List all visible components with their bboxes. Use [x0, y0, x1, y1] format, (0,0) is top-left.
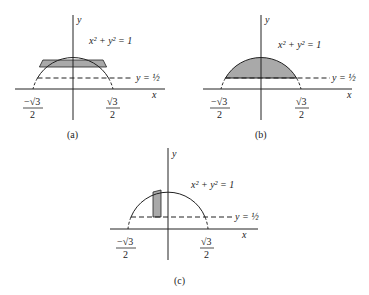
left-tick-denominator: 2: [217, 109, 222, 120]
circle-arc-dashed-right: [297, 78, 302, 89]
left-tick-denominator: 2: [30, 109, 35, 120]
left-tick-numerator: −√3: [211, 96, 227, 107]
circle-arc-dashed-left: [33, 78, 38, 89]
caption-c: (c): [174, 275, 185, 287]
y-axis-label: y: [76, 14, 82, 25]
circle-arc-dashed-left: [128, 217, 131, 229]
line-label: y = ½: [135, 72, 160, 83]
equation-label: x² + y² = 1: [277, 39, 321, 50]
y-axis-label: y: [264, 14, 270, 25]
left-tick-numerator: −√3: [24, 96, 40, 107]
x-axis-label: x: [151, 89, 157, 100]
caption-b: (b): [255, 129, 267, 141]
circle-arc-dashed-left: [221, 78, 226, 89]
right-tick-denominator: 2: [299, 109, 304, 120]
x-axis-label: x: [241, 229, 247, 240]
panel-c: y x² + y² = 1 y = ½ x −√3 2 √3 2 (c): [110, 148, 259, 287]
right-tick-denominator: 2: [110, 109, 115, 120]
line-label: y = ½: [234, 211, 259, 222]
caption-a: (a): [67, 129, 78, 141]
right-tick-denominator: 2: [204, 249, 209, 260]
left-tick-numerator: −√3: [117, 236, 133, 247]
right-tick-numerator: √3: [201, 236, 212, 247]
line-label: y = ½: [331, 72, 356, 83]
left-tick-denominator: 2: [123, 249, 128, 260]
right-tick-numerator: √3: [296, 96, 307, 107]
circle-arc-dashed-right: [205, 217, 208, 229]
equation-label: x² + y² = 1: [190, 179, 234, 190]
panel-b: y x² + y² = 1 y = ½ x −√3 2 √3 2 (b): [203, 14, 356, 141]
equation-label: x² + y² = 1: [88, 35, 132, 46]
circle-arc-dashed-right: [109, 78, 114, 89]
right-tick-numerator: √3: [107, 96, 118, 107]
y-axis-label: y: [171, 148, 177, 159]
panel-a: y x² + y² = 1 y = ½ x −√3 2 √3 2 (a): [15, 14, 165, 141]
x-axis-label: x: [346, 89, 352, 100]
figure-canvas: y x² + y² = 1 y = ½ x −√3 2 √3 2 (a) y x…: [0, 0, 369, 295]
